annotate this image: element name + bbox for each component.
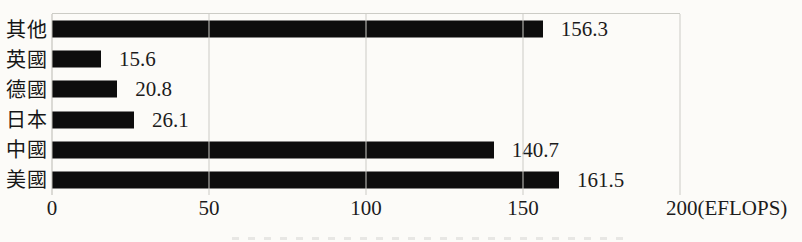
- bar-日本: [52, 111, 134, 128]
- x-axis: 050100150200(EFLOPS): [52, 194, 680, 226]
- value-label: 161.5: [577, 169, 624, 190]
- x-tick-label: 150: [507, 197, 539, 220]
- gridline: [680, 14, 681, 195]
- category-label: 日本: [4, 104, 50, 134]
- cropped-caption-fragment: [232, 237, 632, 240]
- bar-美國: [52, 171, 559, 188]
- bar-德國: [52, 81, 117, 98]
- value-label: 20.8: [135, 79, 172, 100]
- category-label: 其他: [4, 13, 50, 43]
- gridline: [366, 14, 367, 195]
- value-label: 156.3: [561, 19, 608, 40]
- value-label: 140.7: [512, 139, 559, 160]
- y-axis-line: [52, 14, 53, 195]
- bar-中國: [52, 141, 494, 158]
- plot-area: 156.315.620.826.1140.7161.5: [52, 13, 680, 195]
- bar-其他: [52, 21, 543, 38]
- bar-英國: [52, 51, 101, 68]
- gridline: [523, 14, 524, 195]
- x-tick-label: 0: [47, 197, 58, 220]
- value-label: 26.1: [152, 109, 189, 130]
- gridline: [209, 14, 210, 195]
- category-label: 英國: [4, 43, 50, 73]
- x-tick-label: 50: [199, 197, 220, 220]
- category-label: 中國: [4, 134, 50, 164]
- value-label: 15.6: [119, 49, 156, 70]
- category-label: 德國: [4, 73, 50, 103]
- bar-chart: 其他英國德國日本中國美國 156.315.620.826.1140.7161.5…: [0, 0, 802, 242]
- x-tick-label: 200(EFLOPS): [666, 197, 787, 220]
- x-tick-label: 100: [350, 197, 382, 220]
- category-label: 美國: [4, 164, 50, 194]
- category-axis: 其他英國德國日本中國美國: [4, 13, 50, 194]
